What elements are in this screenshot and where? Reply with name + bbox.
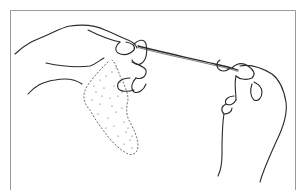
right-hand (217, 60, 286, 182)
yarn-drawing (0, 0, 301, 190)
yarn-strand (138, 46, 238, 70)
left-hand (15, 25, 147, 94)
illustration-frame (0, 0, 301, 190)
frame-border (11, 11, 296, 191)
fleece-stipple (91, 67, 132, 148)
